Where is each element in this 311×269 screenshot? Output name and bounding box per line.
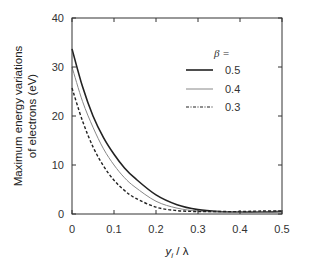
series-line-0.4 — [72, 67, 282, 212]
y-axis-label-line-1: Maximum energy variations — [12, 45, 24, 186]
y-axis-label: Maximum energy variations of electrons (… — [12, 45, 38, 186]
y-tick-label: 20 — [52, 110, 64, 122]
legend: β = 0.5 0.4 0.3 — [186, 47, 240, 113]
plot-frame — [72, 18, 282, 214]
legend-title: β = — [213, 47, 230, 59]
x-tick-label: 0.3 — [190, 223, 205, 235]
y-tick-label: 30 — [52, 61, 64, 73]
series-line-0.5 — [72, 49, 282, 212]
y-tick-label: 40 — [52, 12, 64, 24]
x-tick-label: 0.5 — [274, 223, 289, 235]
axis-ticks — [72, 18, 282, 214]
x-tick-label: 0.2 — [148, 223, 163, 235]
legend-label-0.4: 0.4 — [225, 83, 240, 95]
legend-label-0.5: 0.5 — [225, 64, 240, 76]
x-tick-label: 0.4 — [232, 223, 247, 235]
svg-text:yi / λ: yi / λ — [165, 245, 189, 260]
x-tick-labels: 00.10.20.30.40.5 — [69, 223, 290, 235]
line-chart: 00.10.20.30.40.5 010203040 Maximum energ… — [0, 0, 311, 269]
x-axis-label-rest: / λ — [173, 245, 189, 257]
y-tick-label: 10 — [52, 159, 64, 171]
x-axis-label: yi / λ — [165, 245, 189, 260]
y-axis-label-line-2: of electrons (eV) — [26, 74, 38, 159]
plot-lines — [72, 49, 282, 212]
y-tick-labels: 010203040 — [52, 12, 64, 220]
legend-label-0.3: 0.3 — [225, 101, 240, 113]
x-tick-label: 0.1 — [106, 223, 121, 235]
x-tick-label: 0 — [69, 223, 75, 235]
y-tick-label: 0 — [58, 208, 64, 220]
